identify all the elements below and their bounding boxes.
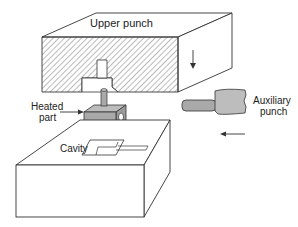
left-arrow-icon (220, 132, 245, 137)
heated-part-label-line2: part (39, 112, 56, 123)
auxiliary-punch (182, 89, 246, 114)
cavity-label: Cavity (60, 143, 88, 154)
upper-punch-label: Upper punch (90, 18, 153, 29)
auxiliary-punch-label-line2: punch (260, 106, 287, 117)
heated-part-pointer-arrow (60, 110, 84, 115)
heated-part-label-line1: Heated (31, 101, 63, 112)
lower-die (16, 120, 170, 217)
auxiliary-punch-label-line1: Auxiliary (253, 95, 291, 106)
